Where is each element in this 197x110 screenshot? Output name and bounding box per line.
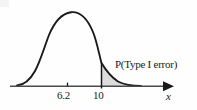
type-one-error-label: P(Type I error) [115, 59, 177, 70]
x-axis-label: x [166, 91, 171, 102]
tick-label-10: 10 [93, 90, 104, 101]
tick-label-6-2: 6.2 [57, 90, 70, 101]
normal-distribution-curve [17, 12, 141, 86]
statistics-figure: 6.2 10 x P(Type I error) [0, 0, 197, 110]
